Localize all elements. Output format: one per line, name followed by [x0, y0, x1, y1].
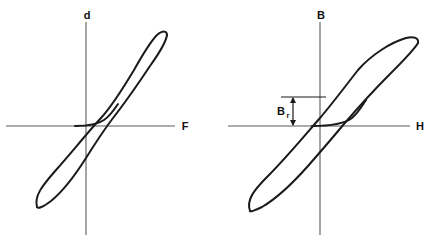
- left-panel: d F: [6, 9, 189, 235]
- right-x-axis-label: H: [416, 120, 424, 132]
- hysteresis-figure: d F B r B H: [0, 0, 435, 252]
- left-x-axis-label: F: [182, 120, 189, 132]
- remanence-label-subscript: r: [287, 111, 290, 120]
- right-loop-lower-branch: [250, 43, 418, 211]
- remanence-arrow-up: [290, 97, 296, 103]
- right-panel: B r B H: [228, 9, 424, 235]
- left-y-axis-label: d: [84, 9, 91, 21]
- right-y-axis-label: B: [317, 9, 325, 21]
- remanence-arrow-down: [290, 120, 296, 126]
- remanence-label: B: [277, 105, 285, 117]
- left-loop-inner-pinch: [75, 104, 118, 126]
- left-loop-upper-branch: [36, 32, 167, 207]
- remanence-dimension: B r: [277, 97, 326, 126]
